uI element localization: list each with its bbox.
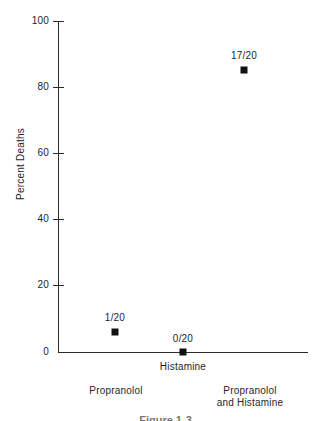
point-label-propranolol-and-histamine: 17/20 xyxy=(231,50,257,61)
point-label-histamine: 0/20 xyxy=(173,333,193,344)
category-label-propranolol-and-histamine: Propranololand Histamine xyxy=(217,385,284,408)
y-tick-100 xyxy=(53,21,64,22)
y-axis-line xyxy=(58,21,59,353)
category-label-histamine: Histamine xyxy=(160,361,206,373)
y-tick-label-20: 20 xyxy=(9,280,49,290)
point-label-propranolol: 1/20 xyxy=(105,312,125,323)
category-label-line1: Propranolol xyxy=(223,385,276,396)
y-tick-20 xyxy=(53,285,64,286)
data-point-histamine[interactable] xyxy=(180,349,187,356)
plot-area: 100 80 60 40 20 0 Percent Deaths 1/20 0/… xyxy=(0,0,331,421)
y-tick-label-100: 100 xyxy=(9,16,49,26)
data-point-propranolol-and-histamine[interactable] xyxy=(241,67,248,74)
data-point-propranolol[interactable] xyxy=(112,329,119,336)
y-tick-40 xyxy=(53,219,64,220)
category-label-line2: and Histamine xyxy=(217,397,284,408)
y-tick-label-80: 80 xyxy=(9,82,49,92)
category-label-propranolol: Propranolol xyxy=(89,385,142,397)
y-axis-title: Percent Deaths xyxy=(16,104,26,224)
figure-caption: Figure 1-3 xyxy=(0,414,331,421)
y-tick-60 xyxy=(53,153,64,154)
y-tick-label-0: 0 xyxy=(9,347,49,357)
figure-scatter-percent-deaths: 100 80 60 40 20 0 Percent Deaths 1/20 0/… xyxy=(0,0,331,421)
y-tick-label-40: 40 xyxy=(9,214,49,224)
y-tick-80 xyxy=(53,87,64,88)
